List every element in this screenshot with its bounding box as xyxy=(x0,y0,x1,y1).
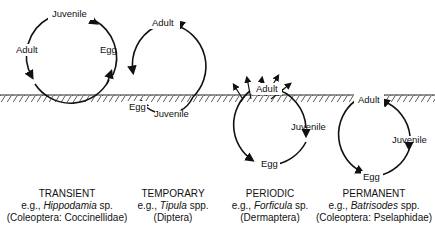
caption-title: PERIODIC xyxy=(222,188,318,200)
caption-taxon: (Coleoptera: Coccinellidae) xyxy=(2,212,132,224)
caption-example: e.g., Batrisodes spp. xyxy=(312,200,435,212)
caption-taxon: (Dermaptera) xyxy=(222,212,318,224)
cycle-transient: Juvenile Adult Egg xyxy=(15,8,117,103)
stage-label: Egg xyxy=(261,158,278,169)
stage-label: Egg xyxy=(363,171,380,182)
caption-permanent: PERMANENT e.g., Batrisodes spp. (Coleopt… xyxy=(312,188,435,224)
caption-transient: TRANSIENT e.g., Hippodamia sp. (Coleopte… xyxy=(2,188,132,224)
caption-example: e.g., Forficula sp. xyxy=(222,200,318,212)
stage-label: Egg xyxy=(129,101,146,112)
stage-label: Adult xyxy=(358,94,380,105)
stage-label: Juvenile xyxy=(291,121,326,132)
caption-title: TEMPORARY xyxy=(130,188,216,200)
stage-label: Adult xyxy=(152,17,174,28)
caption-example: e.g., Hippodamia sp. xyxy=(2,200,132,212)
caption-title: TRANSIENT xyxy=(2,188,132,200)
caption-example: e.g., Tipula spp. xyxy=(130,200,216,212)
cycle-permanent: Adult Juvenile Egg xyxy=(339,94,427,183)
stage-label: Egg xyxy=(100,44,117,55)
stage-label: Juvenile xyxy=(392,134,427,145)
caption-title: PERMANENT xyxy=(312,188,435,200)
caption-temporary: TEMPORARY e.g., Tipula spp. (Diptera) xyxy=(130,188,216,224)
caption-taxon: (Diptera) xyxy=(130,212,216,224)
stage-label: Adult xyxy=(16,44,38,55)
stage-label: Adult xyxy=(256,83,278,94)
stage-label: Juvenile xyxy=(154,108,189,119)
cycle-temporary: Adult Egg Juvenile xyxy=(127,17,206,119)
caption-periodic: PERIODIC e.g., Forficula sp. (Dermaptera… xyxy=(222,188,318,224)
cycle-periodic: Adult Juvenile Egg xyxy=(234,76,326,170)
caption-taxon: (Coleoptera: Pselaphidae) xyxy=(312,212,435,224)
stage-label: Juvenile xyxy=(52,8,87,19)
